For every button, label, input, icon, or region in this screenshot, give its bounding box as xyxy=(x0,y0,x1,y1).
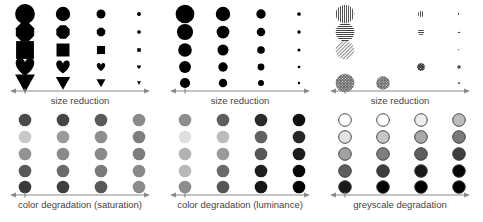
circle-mark xyxy=(56,7,70,21)
color-row xyxy=(179,148,306,161)
panel-greyscale: greyscale degradation xyxy=(320,111,480,222)
color-row xyxy=(339,131,466,144)
color-dot xyxy=(415,114,428,127)
axis-arrow xyxy=(170,193,310,198)
color-dot xyxy=(339,181,352,194)
color-dot xyxy=(339,131,352,144)
color-dot xyxy=(19,165,32,178)
color-dot xyxy=(415,181,428,194)
diagonal-hatch-texture-mark xyxy=(336,41,355,60)
color-dot xyxy=(133,165,146,178)
triangle-down-mark xyxy=(56,77,70,90)
square-mark xyxy=(137,48,141,52)
color-row xyxy=(19,165,146,178)
panel-label: size reduction xyxy=(320,95,480,106)
dot-mark xyxy=(216,7,230,21)
color-row xyxy=(19,131,146,144)
color-dot xyxy=(293,181,306,194)
texture-row-crosshatch xyxy=(336,74,461,93)
axis-arrow xyxy=(10,89,150,94)
color-dot xyxy=(415,131,428,144)
color-dot xyxy=(339,165,352,178)
color-row xyxy=(339,181,466,194)
color-dot xyxy=(255,114,268,127)
circle-mark xyxy=(97,10,106,19)
color-dot xyxy=(133,181,146,194)
color-dot xyxy=(19,181,32,194)
dot-mark xyxy=(178,43,192,57)
color-row xyxy=(179,131,306,144)
texture-row-diagonal-hatch xyxy=(336,41,461,60)
axis-arrow xyxy=(170,89,310,94)
color-dot xyxy=(377,181,390,194)
panel-shape-size: size reduction xyxy=(0,0,160,111)
color-row xyxy=(19,114,146,127)
color-dot xyxy=(453,181,466,194)
dot-row xyxy=(178,43,300,57)
horizontal-stripes-texture-mark xyxy=(458,31,461,34)
panel-texture-size: size reduction xyxy=(320,0,480,111)
color-dot xyxy=(255,181,268,194)
dot-mark xyxy=(297,48,300,51)
panel-label: greyscale degradation xyxy=(320,199,480,210)
color-dot xyxy=(179,181,192,194)
dot-row xyxy=(176,5,301,24)
color-dot xyxy=(255,148,268,161)
crosshatch-dark-texture-mark xyxy=(417,63,425,71)
crosshatch-texture-mark xyxy=(458,82,461,85)
color-dot xyxy=(453,148,466,161)
dot-mark xyxy=(298,82,300,84)
color-row xyxy=(179,181,306,194)
color-row xyxy=(19,181,146,194)
crosshatch-dark-texture-mark xyxy=(457,65,460,68)
color-row xyxy=(339,148,466,161)
color-dot xyxy=(415,148,428,161)
square-mark xyxy=(57,44,70,57)
color-dot xyxy=(179,131,192,144)
color-dot xyxy=(415,165,428,178)
color-dot xyxy=(179,148,192,161)
shape-row-circle xyxy=(15,4,141,24)
color-dot xyxy=(377,148,390,161)
color-dot xyxy=(19,131,32,144)
dot-row xyxy=(177,24,301,40)
texture-row-horizontal-stripes xyxy=(336,23,461,42)
dot-mark xyxy=(258,64,265,71)
dot-mark xyxy=(177,24,193,40)
color-dot xyxy=(95,148,108,161)
heart-mark xyxy=(97,63,105,71)
texture-row-vertical-stripes xyxy=(336,5,461,24)
color-dot xyxy=(217,131,230,144)
octagon-mark xyxy=(16,23,34,41)
heart-mark xyxy=(16,58,34,76)
horizontal-stripes-texture-mark xyxy=(418,29,424,35)
dot-mark xyxy=(258,80,264,86)
color-dot xyxy=(339,114,352,127)
vertical-stripes-texture-mark xyxy=(336,5,355,24)
diagonal-hatch-texture-mark xyxy=(458,49,461,52)
vertical-stripes-texture-mark xyxy=(458,13,461,16)
dot-row xyxy=(180,78,300,88)
color-dot xyxy=(179,114,192,127)
color-dot xyxy=(255,165,268,178)
panel-label: color degradation (luminance) xyxy=(160,199,320,210)
dot-row xyxy=(179,61,300,73)
color-dot xyxy=(57,181,70,194)
triangle-down-mark xyxy=(97,79,106,87)
color-dot xyxy=(19,148,32,161)
dot-mark xyxy=(257,46,265,54)
panel-label: size reduction xyxy=(160,95,320,106)
color-dot xyxy=(293,165,306,178)
color-row xyxy=(339,165,466,178)
circle-mark xyxy=(15,4,35,24)
color-dot xyxy=(95,181,108,194)
color-dot xyxy=(339,148,352,161)
shape-row-heart xyxy=(16,58,141,76)
square-mark xyxy=(16,41,34,59)
color-dot xyxy=(453,131,466,144)
color-row xyxy=(179,165,306,178)
color-dot xyxy=(293,131,306,144)
color-dot xyxy=(133,131,146,144)
color-dot xyxy=(95,131,108,144)
color-dot xyxy=(57,131,70,144)
